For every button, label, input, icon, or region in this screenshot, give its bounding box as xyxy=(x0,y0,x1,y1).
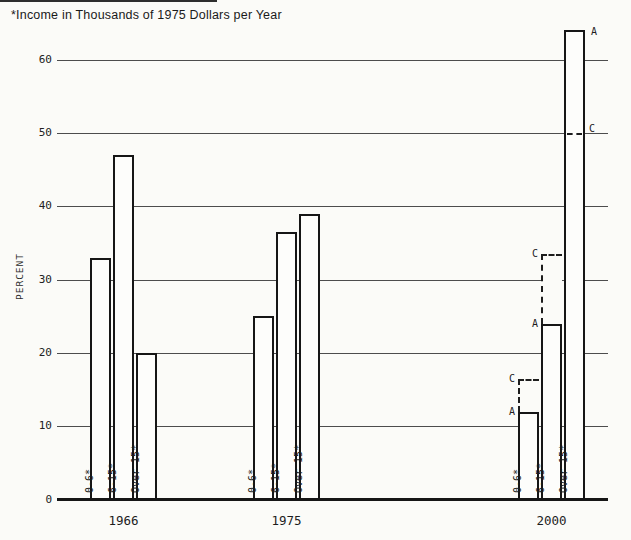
projection-dashed-line xyxy=(541,254,562,256)
y-tick-label: 40 xyxy=(26,199,52,212)
bar-label: 6-15* xyxy=(535,463,546,493)
y-tick-label: 10 xyxy=(26,419,52,432)
bar-2000-Over 15* xyxy=(564,30,585,500)
projection-dashed-line xyxy=(518,379,539,381)
scenario-a-label: A xyxy=(501,406,515,418)
scenario-c-label: C xyxy=(524,248,538,260)
gridline-30 xyxy=(57,280,608,281)
plot-area: 01020304050600-6*6-15*Over 15*19660-6*6-… xyxy=(0,0,631,540)
scenario-c-label: C xyxy=(589,123,603,135)
chart-figure: *Income in Thousands of 1975 Dollars per… xyxy=(0,0,631,540)
x-category-label: 1966 xyxy=(89,513,159,528)
bar-label: 0-6* xyxy=(512,469,523,493)
gridline-60 xyxy=(57,60,608,61)
scenario-c-label: C xyxy=(501,373,515,385)
bar-label: 6-15* xyxy=(270,463,281,493)
x-category-label: 1975 xyxy=(252,513,322,528)
bar-label: Over 15* xyxy=(558,445,569,493)
bar-label: 0-6* xyxy=(247,469,258,493)
scenario-a-label: A xyxy=(591,26,605,38)
bar-label: Over 15* xyxy=(293,445,304,493)
x-category-label: 2000 xyxy=(517,513,587,528)
y-tick-label: 0 xyxy=(26,493,52,506)
y-tick-label: 60 xyxy=(26,53,52,66)
gridline-50 xyxy=(57,133,608,134)
y-tick-label: 20 xyxy=(26,346,52,359)
scenario-a-label: A xyxy=(524,318,538,330)
y-tick-label: 30 xyxy=(26,273,52,286)
bar-label: Over 15* xyxy=(130,445,141,493)
projection-dashed-line xyxy=(518,379,520,412)
projection-dashed-line xyxy=(541,254,543,324)
x-axis-line xyxy=(57,498,608,501)
gridline-40 xyxy=(57,206,608,207)
y-tick-label: 50 xyxy=(26,126,52,139)
projection-dashed-line xyxy=(567,133,582,135)
bar-label: 6-15* xyxy=(107,463,118,493)
bar-label: 0-6* xyxy=(84,469,95,493)
